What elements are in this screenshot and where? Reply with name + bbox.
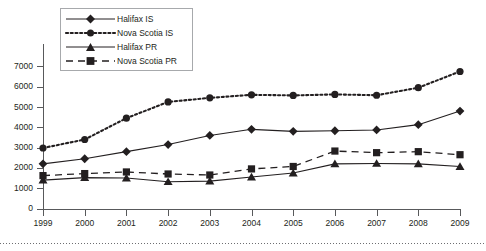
y-axis-tick-label-wrap: 3000: [0, 143, 33, 151]
data-point-marker: [414, 120, 423, 129]
x-axis-tick: [252, 210, 253, 216]
data-point-marker: [80, 173, 89, 181]
x-axis-tick-label: 2009: [440, 219, 480, 228]
y-axis-tick-label-wrap: 5000: [0, 103, 33, 111]
legend-item-nova-scotia-pr: Nova Scotia PR: [64, 54, 188, 68]
data-point-marker: [165, 170, 172, 177]
x-axis-tick: [293, 210, 294, 216]
data-point-marker: [456, 151, 463, 158]
x-axis-tick-label: 2006: [315, 219, 355, 228]
legend-item-halifax-pr: Halifax PR: [64, 40, 188, 54]
legend-swatch-nova-scotia-is: [64, 26, 117, 40]
legend-label-halifax-is: Halifax IS: [117, 14, 153, 24]
data-point-marker: [331, 91, 338, 98]
y-axis-tick-label: 1000: [14, 184, 33, 192]
data-point-marker: [248, 165, 255, 172]
data-point-marker: [122, 147, 131, 156]
y-axis-tick: [37, 87, 43, 88]
line-chart: 70006000500040003000200010000 1999200020…: [0, 0, 486, 251]
x-axis-tick-label: 2005: [273, 219, 313, 228]
data-point-marker: [80, 154, 89, 163]
data-point-marker: [415, 84, 422, 91]
x-axis-tick: [168, 210, 169, 216]
y-axis-tick-label: 5000: [14, 103, 33, 111]
y-axis-tick: [37, 66, 43, 67]
data-point-marker: [247, 125, 256, 134]
data-point-marker: [456, 68, 463, 75]
x-axis-tick: [335, 210, 336, 216]
y-axis-tick-label: 7000: [14, 62, 33, 70]
data-point-marker: [205, 131, 214, 140]
data-point-marker: [206, 171, 213, 178]
x-axis-tick-label: 2000: [65, 219, 105, 228]
x-axis-tick-label: 2007: [357, 219, 397, 228]
data-point-marker: [456, 107, 465, 116]
y-axis-tick-label: 2000: [14, 163, 33, 171]
series-line: [43, 163, 460, 181]
data-point-marker: [206, 94, 213, 101]
legend-item-nova-scotia-is: Nova Scotia IS: [64, 26, 188, 40]
x-axis-tick: [377, 210, 378, 216]
y-axis-tick: [37, 127, 43, 128]
data-point-marker: [414, 160, 423, 168]
data-point-marker: [81, 136, 88, 143]
data-point-marker: [373, 149, 380, 156]
y-axis-tick-label: 0: [28, 204, 33, 212]
data-point-marker: [164, 177, 173, 185]
legend-swatch-halifax-is: [64, 12, 117, 26]
series-line: [43, 71, 460, 148]
series-halifax-pr: [39, 159, 465, 185]
legend-item-halifax-is: Halifax IS: [64, 12, 188, 26]
series-nova-scotia-pr: [39, 147, 463, 179]
x-axis-tick: [85, 210, 86, 216]
legend-label-halifax-pr: Halifax PR: [117, 42, 157, 52]
x-axis-tick-label: 2001: [106, 219, 146, 228]
x-axis-tick: [210, 210, 211, 216]
data-point-marker: [415, 148, 422, 155]
x-axis-tick-label: 2008: [398, 219, 438, 228]
y-axis-tick-label: 3000: [14, 143, 33, 151]
data-point-marker: [247, 173, 256, 181]
y-axis-tick-label-wrap: 7000: [0, 62, 33, 70]
series-line: [43, 151, 460, 176]
data-point-marker: [330, 160, 339, 168]
y-axis-tick-label-wrap: 1000: [0, 184, 33, 192]
y-axis-tick-label-wrap: 4000: [0, 123, 33, 131]
x-axis-tick: [126, 210, 127, 216]
data-point-marker: [205, 177, 214, 185]
y-axis-tick-label-wrap: 6000: [0, 82, 33, 90]
x-axis-tick-label: 2003: [190, 219, 230, 228]
legend-swatch-halifax-pr: [64, 40, 117, 54]
x-axis-tick-label: 1999: [23, 219, 63, 228]
data-point-marker: [165, 98, 172, 105]
data-point-marker: [289, 127, 298, 136]
y-axis-tick: [37, 188, 43, 189]
legend-label-nova-scotia-is: Nova Scotia IS: [117, 28, 173, 38]
series-nova-scotia-is: [39, 68, 463, 152]
y-axis-tick: [37, 107, 43, 108]
y-axis-tick-label: 4000: [14, 123, 33, 131]
data-point-marker: [122, 174, 131, 182]
legend-label-nova-scotia-pr: Nova Scotia PR: [117, 56, 177, 66]
data-point-marker: [248, 91, 255, 98]
data-point-marker: [290, 163, 297, 170]
y-axis-tick: [37, 148, 43, 149]
legend-swatch-nova-scotia-pr: [64, 54, 117, 68]
data-point-marker: [373, 92, 380, 99]
data-point-marker: [331, 147, 338, 154]
x-axis-tick-label: 2004: [232, 219, 272, 228]
data-point-marker: [289, 169, 298, 177]
y-axis-tick-label-wrap: 2000: [0, 163, 33, 171]
chart-legend: Halifax IS Nova Scotia IS Halifax PR: [60, 8, 193, 71]
y-axis-tick-label: 6000: [14, 82, 33, 90]
series-halifax-is: [39, 107, 465, 169]
bottom-dotted-rule: [0, 243, 486, 244]
data-point-marker: [164, 140, 173, 149]
y-axis-tick-label-wrap: 0: [0, 204, 33, 212]
x-axis-tick: [43, 210, 44, 216]
x-axis-tick: [418, 210, 419, 216]
x-axis-tick-label: 2002: [148, 219, 188, 228]
data-point-marker: [372, 159, 381, 167]
data-point-marker: [123, 168, 130, 175]
series-line: [43, 111, 460, 164]
